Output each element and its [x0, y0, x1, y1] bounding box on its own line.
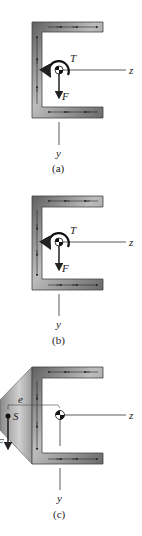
panel-a: z y T F (a)	[32, 22, 134, 175]
centroid-icon	[55, 238, 63, 246]
eccentricity-label: e	[18, 393, 23, 405]
panel-b: z y T F (b)	[32, 196, 134, 347]
channel-shear-flow-figure: z y T F (a) z y T	[0, 0, 142, 536]
y-axis-label: y	[56, 492, 62, 504]
panel-c: e z y S F (c)	[0, 367, 134, 521]
force-label: F	[0, 436, 4, 448]
centroid-icon	[55, 66, 63, 74]
force-label: F	[61, 90, 69, 102]
centroid-icon	[56, 411, 65, 420]
y-axis-label: y	[55, 147, 61, 159]
force-label: F	[61, 262, 69, 274]
z-axis-label: z	[128, 236, 134, 248]
z-axis-label: z	[128, 409, 134, 421]
channel-section	[32, 196, 103, 290]
z-axis-label: z	[128, 64, 134, 76]
shear-center-point	[6, 414, 11, 419]
y-axis-label: y	[55, 318, 61, 330]
torque-label: T	[70, 52, 77, 64]
channel-section	[32, 367, 103, 464]
shear-center-label: S	[13, 410, 19, 422]
torque-label: T	[70, 224, 77, 236]
panel-caption: (c)	[53, 508, 66, 521]
panel-caption: (a)	[52, 162, 65, 175]
panel-caption: (b)	[52, 334, 65, 347]
shear-flow-arrows	[37, 372, 98, 459]
